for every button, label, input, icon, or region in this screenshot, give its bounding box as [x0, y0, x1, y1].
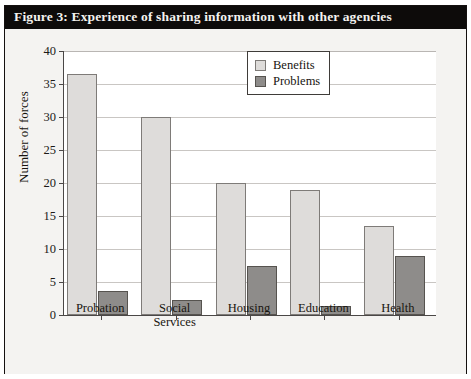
y-axis-title: Number of forces	[16, 91, 32, 183]
y-tick-mark	[59, 183, 64, 184]
y-tick-label: 30	[44, 110, 57, 125]
chart-body: Number of forces 0510152025303540 Probat…	[5, 29, 466, 374]
y-tick-label: 5	[50, 275, 56, 290]
legend-swatch-problems-icon	[255, 76, 266, 87]
y-tick-label: 40	[44, 44, 57, 59]
x-tick-mark	[101, 315, 102, 320]
figure-frame: Figure 3: Experience of sharing informat…	[4, 5, 467, 374]
y-tick-mark	[59, 282, 64, 283]
x-tick-mark	[399, 315, 400, 320]
gridline	[64, 216, 436, 217]
y-tick-mark	[59, 51, 64, 52]
y-tick-label: 20	[44, 176, 57, 191]
chart-legend: Benefits Problems	[247, 51, 330, 95]
y-tick-label: 15	[44, 209, 57, 224]
y-tick-mark	[59, 249, 64, 250]
y-tick-mark	[59, 84, 64, 85]
gridline	[64, 183, 436, 184]
y-tick-label: 25	[44, 143, 57, 158]
legend-item-benefits: Benefits	[255, 57, 320, 73]
figure-title-bar: Figure 3: Experience of sharing informat…	[5, 6, 466, 29]
legend-item-problems: Problems	[255, 73, 320, 89]
bar-benefits-probation	[67, 74, 97, 315]
gridline	[64, 117, 436, 118]
legend-swatch-benefits-icon	[255, 60, 266, 71]
figure-title: Figure 3: Experience of sharing informat…	[14, 9, 392, 25]
legend-label-benefits: Benefits	[273, 58, 315, 73]
y-tick-label: 10	[44, 242, 57, 257]
bar-benefits-social-services	[141, 117, 171, 315]
x-tick-mark	[324, 315, 325, 320]
y-tick-mark	[59, 315, 64, 316]
bar-benefits-housing	[216, 183, 246, 315]
y-tick-mark	[59, 117, 64, 118]
gridline	[64, 150, 436, 151]
x-axis-label: Health	[348, 301, 448, 315]
y-tick-mark	[59, 216, 64, 217]
y-tick-mark	[59, 150, 64, 151]
x-tick-mark	[250, 315, 251, 320]
bar-benefits-education	[290, 190, 320, 315]
y-tick-label: 35	[44, 77, 57, 92]
x-axis-label-line: Health	[348, 301, 448, 315]
legend-label-problems: Problems	[273, 74, 320, 89]
x-axis-label-line: Services	[125, 315, 225, 329]
